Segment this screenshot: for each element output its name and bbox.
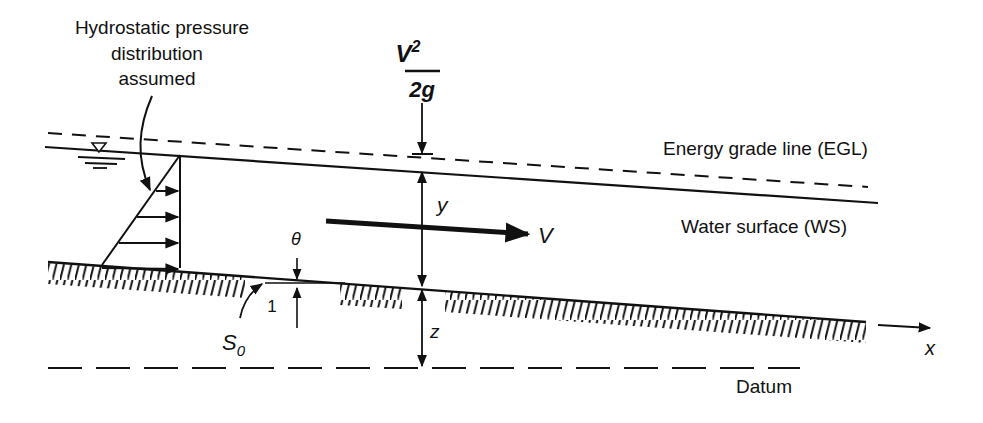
channel-bed — [48, 262, 866, 343]
egl-label: Energy grade line (EGL) — [663, 138, 868, 159]
slope-run-label: 1 — [267, 297, 276, 316]
open-channel-flow-diagram: Hydrostatic pressure distribution assume… — [0, 0, 983, 423]
slope-label: S0 — [222, 330, 246, 359]
pressure-note-line1: Hydrostatic pressure — [75, 17, 249, 38]
velocity-arrow — [326, 221, 528, 234]
velocity-head-label: V2 2g — [396, 38, 440, 102]
pressure-note-line2: distribution — [111, 43, 203, 64]
elevation-label: z — [429, 321, 440, 342]
velocity-vector: V — [326, 221, 555, 248]
pressure-note-line3: assumed — [118, 68, 195, 89]
x-axis-arrow — [878, 325, 930, 328]
ws-label: Water surface (WS) — [681, 216, 847, 237]
velocity-head-denominator: 2g — [408, 77, 435, 102]
angle-theta-label: θ — [291, 229, 301, 249]
velocity-label: V — [538, 223, 555, 248]
vertical-dimensions: y z — [412, 103, 449, 366]
inverted-triangle-icon — [78, 143, 125, 168]
x-axis: x — [878, 325, 936, 359]
velocity-head-numerator: V2 — [396, 38, 421, 67]
datum-label: Datum — [736, 376, 792, 397]
pressure-distribution-triangle — [102, 155, 180, 269]
pressure-note-leader-arrow — [140, 96, 152, 190]
depth-label: y — [435, 193, 449, 216]
x-axis-label: x — [924, 337, 936, 359]
